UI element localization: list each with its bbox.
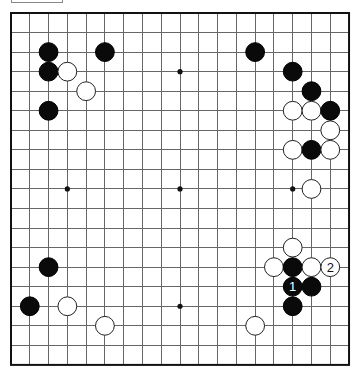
white-stone[interactable] <box>58 297 77 316</box>
white-stone-icon <box>58 62 77 81</box>
star-point-icon <box>290 186 295 191</box>
black-stone-icon <box>302 82 321 101</box>
white-stone[interactable] <box>283 238 302 257</box>
black-stone[interactable] <box>246 43 265 62</box>
move-number: 1 <box>289 279 296 294</box>
white-stone[interactable] <box>96 316 115 335</box>
white-stone-icon <box>321 140 340 159</box>
black-stone[interactable] <box>283 258 302 277</box>
white-stone[interactable] <box>77 82 96 101</box>
black-stone[interactable] <box>321 101 340 120</box>
go-board[interactable]: 21 <box>0 0 360 377</box>
black-stone-icon <box>39 62 58 81</box>
star-point-icon <box>65 186 70 191</box>
white-stone-icon <box>283 238 302 257</box>
white-stone[interactable] <box>265 258 284 277</box>
black-stone-icon <box>302 277 321 296</box>
white-stone-icon <box>302 180 321 199</box>
black-stone[interactable] <box>96 43 115 62</box>
black-stone-icon <box>246 43 265 62</box>
white-stone-icon <box>77 82 96 101</box>
black-stone-icon <box>283 62 302 81</box>
white-stone[interactable] <box>302 258 321 277</box>
white-stone-icon <box>302 258 321 277</box>
star-point-icon <box>177 69 182 74</box>
white-stone-icon <box>283 101 302 120</box>
black-stone[interactable] <box>39 43 58 62</box>
white-stone-icon <box>265 258 284 277</box>
white-stone-icon <box>246 316 265 335</box>
white-stone[interactable] <box>58 62 77 81</box>
black-stone-icon <box>20 297 39 316</box>
white-stone[interactable] <box>321 121 340 140</box>
white-stone-icon <box>283 140 302 159</box>
black-stone[interactable] <box>39 101 58 120</box>
black-stone-icon <box>39 101 58 120</box>
white-stone-icon <box>321 121 340 140</box>
white-stone-2[interactable]: 2 <box>321 258 340 277</box>
black-stone[interactable] <box>39 258 58 277</box>
white-stone[interactable] <box>321 140 340 159</box>
move-number: 2 <box>327 260 334 275</box>
white-stone[interactable] <box>283 140 302 159</box>
star-point-icon <box>177 304 182 309</box>
black-stone-icon <box>96 43 115 62</box>
black-stone[interactable] <box>20 297 39 316</box>
white-stone-icon <box>302 101 321 120</box>
black-stone[interactable] <box>302 82 321 101</box>
black-stone-icon <box>283 297 302 316</box>
star-point-icon <box>177 186 182 191</box>
black-stone[interactable] <box>302 277 321 296</box>
black-stone-1[interactable]: 1 <box>283 277 302 296</box>
white-stone[interactable] <box>302 180 321 199</box>
black-stone[interactable] <box>283 62 302 81</box>
black-stone-icon <box>321 101 340 120</box>
black-stone[interactable] <box>39 62 58 81</box>
black-stone[interactable] <box>302 140 321 159</box>
white-stone[interactable] <box>302 101 321 120</box>
white-stone-icon <box>58 297 77 316</box>
black-stone-icon <box>302 140 321 159</box>
white-stone[interactable] <box>283 101 302 120</box>
black-stone-icon <box>39 43 58 62</box>
black-stone[interactable] <box>283 297 302 316</box>
black-stone-icon <box>283 258 302 277</box>
white-stone-icon <box>96 316 115 335</box>
white-stone[interactable] <box>246 316 265 335</box>
black-stone-icon <box>39 258 58 277</box>
